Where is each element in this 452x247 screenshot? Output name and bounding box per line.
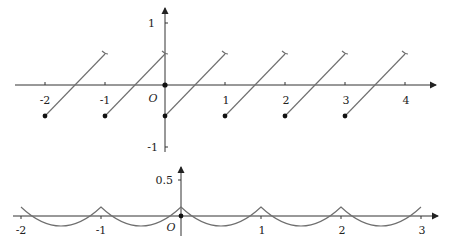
bottom-x-tick-label: 2 xyxy=(339,224,346,237)
bottom-ticks xyxy=(21,180,421,219)
sawtooth-chart: -2 -1 1 2 3 4 1 -1 O xyxy=(15,8,436,154)
bottom-y-tick-label: 0.5 xyxy=(156,174,174,187)
bottom-x-tick-label: -1 xyxy=(96,224,107,237)
bottom-origin-label: O xyxy=(166,221,175,234)
top-y-tick-label: -1 xyxy=(147,141,158,154)
bottom-x-tick-label: -2 xyxy=(16,224,27,237)
top-x-tick-label: -1 xyxy=(100,94,111,107)
top-x-tick-label: -2 xyxy=(40,94,51,107)
top-x-tick-label: 2 xyxy=(283,94,290,107)
closed-endpoint-dots xyxy=(43,82,348,118)
top-x-tick-label: 4 xyxy=(403,94,410,107)
parabola-chart: -2 -1 1 2 3 0.5 O xyxy=(13,167,438,237)
bottom-origin-dot xyxy=(179,214,184,219)
top-origin-label: O xyxy=(148,92,157,105)
figure: -2 -1 1 2 3 4 1 -1 O xyxy=(0,0,452,247)
top-x-tick-label: 3 xyxy=(343,94,350,107)
top-x-tick-label: 1 xyxy=(223,94,230,107)
bottom-x-tick-label: 3 xyxy=(419,224,426,237)
top-y-tick-label: 1 xyxy=(148,17,155,30)
open-endpoint-markers xyxy=(102,51,408,54)
bottom-x-tick-label: 1 xyxy=(259,224,266,237)
